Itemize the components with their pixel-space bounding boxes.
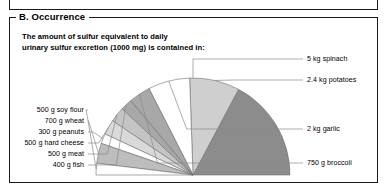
callout-label: 2 kg garlic [307,125,340,133]
callout-label: 700 g wheat [0,117,84,125]
callout-label: 400 g fish [0,161,84,169]
leader-line [215,80,303,81]
callout-label: 500 g meat [0,150,84,158]
callout-label: 300 g peanuts [0,128,84,136]
leader-line [88,121,99,153]
leader-line [193,59,303,78]
callout-label: 5 kg spinach [307,55,347,63]
callout-label: 2.4 kg potatoes [307,76,356,84]
pie-slices [96,78,290,175]
callout-label: 500 g hard cheese [0,139,84,147]
callout-label: 750 g broccoli [307,159,352,167]
screenshot-root: B. Occurrence The amount of sulfur equiv… [0,0,389,185]
leader-line [86,110,96,169]
callout-label: 500 g soy flour [0,106,84,114]
panel-title: B. Occurrence [16,11,89,22]
